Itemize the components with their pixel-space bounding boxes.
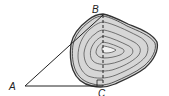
label-B: B — [92, 4, 99, 15]
label-C: C — [98, 88, 106, 96]
diagram-canvas: A B C — [0, 0, 169, 96]
label-A: A — [8, 81, 16, 92]
